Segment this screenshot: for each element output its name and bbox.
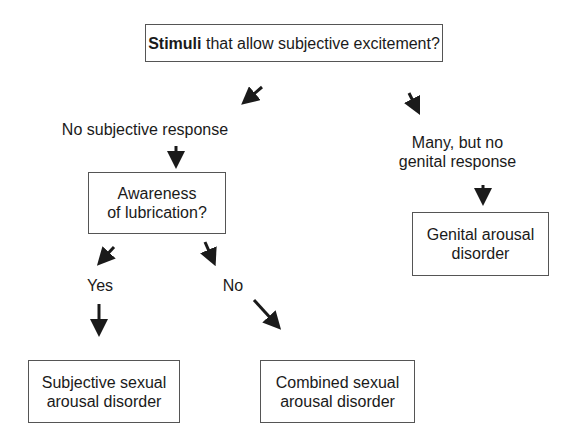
arrows-layer — [0, 0, 562, 444]
arrow-awareness-to-no — [205, 242, 212, 258]
arrow-awareness-to-yes — [103, 247, 114, 259]
arrow-root-to-no-subjective — [248, 87, 262, 99]
arrow-no-to-combined — [254, 300, 275, 323]
arrow-root-to-many-no-genital — [409, 93, 416, 107]
